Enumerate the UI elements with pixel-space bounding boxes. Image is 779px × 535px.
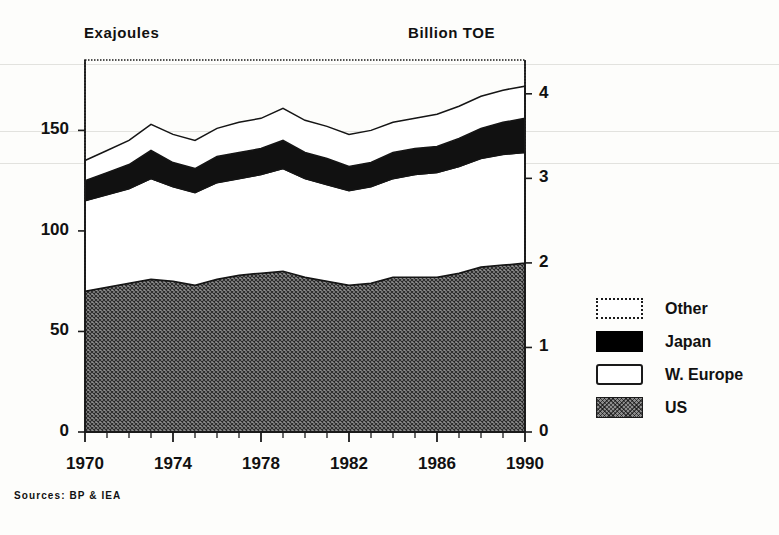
energy-consumption-area-chart: Exajoules Billion TOE 050100150 01234 19… xyxy=(0,0,779,535)
legend-item-label: US xyxy=(665,399,687,417)
legend-item-label: Other xyxy=(665,300,708,318)
chart-legend: OtherJapanW. EuropeUS xyxy=(596,292,771,424)
y-axis-right-tick-label: 3 xyxy=(539,167,579,187)
legend-swatch-icon xyxy=(596,364,643,385)
x-axis-tick-label: 1970 xyxy=(66,454,104,474)
legend-item-other[interactable]: Other xyxy=(596,292,771,325)
x-axis-tick-label: 1978 xyxy=(242,454,280,474)
chart-plot-area xyxy=(0,0,779,535)
legend-item-japan[interactable]: Japan xyxy=(596,325,771,358)
stacked-area-series xyxy=(85,86,525,432)
legend-swatch-icon xyxy=(596,331,643,352)
legend-swatch-icon xyxy=(596,298,643,319)
y-axis-left-tick-label: 0 xyxy=(11,421,69,441)
y-axis-right-tick-label: 4 xyxy=(539,83,579,103)
legend-item-label: Japan xyxy=(665,333,711,351)
legend-item-us[interactable]: US xyxy=(596,391,771,424)
legend-item-label: W. Europe xyxy=(665,366,743,384)
legend-swatch-icon xyxy=(596,397,643,418)
y-axis-left-tick-label: 100 xyxy=(11,220,69,240)
source-note: Sources: BP & IEA xyxy=(14,490,121,501)
y-axis-right-tick-label: 1 xyxy=(539,336,579,356)
y-axis-left-tick-label: 50 xyxy=(11,320,69,340)
y-axis-left-tick-label: 150 xyxy=(11,119,69,139)
y-axis-right-tick-label: 2 xyxy=(539,252,579,272)
x-axis-tick-label: 1990 xyxy=(506,454,544,474)
area-series-us xyxy=(85,263,525,432)
legend-item-w-europe[interactable]: W. Europe xyxy=(596,358,771,391)
y-axis-right-tick-label: 0 xyxy=(539,421,579,441)
x-axis-tick-label: 1982 xyxy=(330,454,368,474)
x-axis-tick-label: 1974 xyxy=(154,454,192,474)
x-axis-tick-label: 1986 xyxy=(418,454,456,474)
